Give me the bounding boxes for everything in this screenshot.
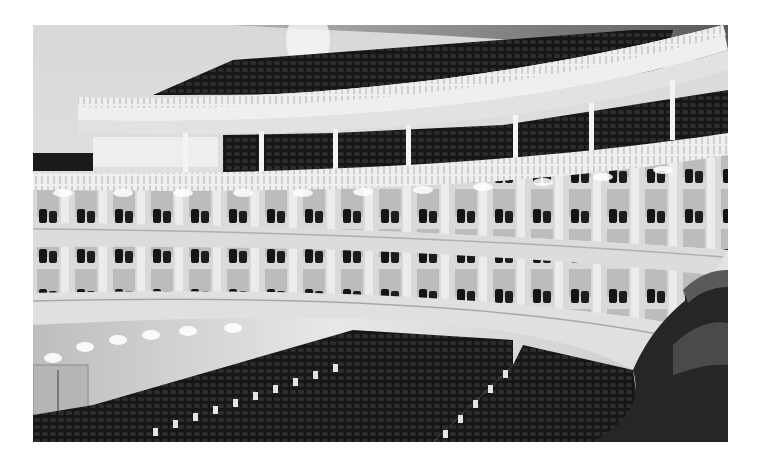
concert-hall-photo: Black-and-white photograph of a concert …: [33, 25, 728, 442]
concert-hall-illustration: [33, 25, 728, 442]
